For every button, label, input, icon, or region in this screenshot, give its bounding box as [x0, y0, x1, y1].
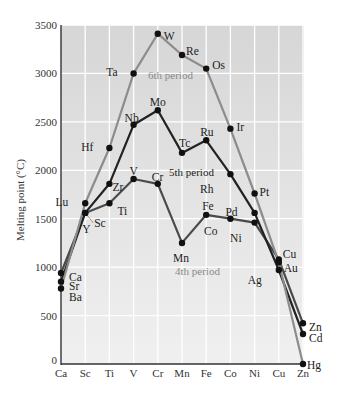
x-tick-label: Ti — [105, 367, 114, 379]
point-label: Mn — [173, 252, 189, 264]
point-label: Pt — [260, 186, 270, 198]
data-point — [58, 278, 64, 284]
point-label: Cu — [283, 248, 297, 260]
y-axis-ticks: 0500100015002000250030003500 — [35, 19, 58, 366]
point-label: Ag — [248, 274, 262, 287]
point-label: Fe — [202, 200, 214, 212]
data-point — [179, 150, 185, 156]
point-label: Au — [284, 262, 298, 274]
point-label: Cd — [309, 332, 323, 344]
point-label: Sc — [94, 217, 106, 229]
y-tick-label: 1500 — [35, 213, 58, 225]
point-label: Ru — [200, 126, 214, 138]
point-label: Rh — [200, 183, 214, 195]
data-point — [300, 331, 306, 337]
data-point — [276, 267, 282, 273]
y-tick-label: 1000 — [35, 261, 58, 273]
y-axis-title: Melting point (°C) — [14, 159, 27, 241]
data-point — [227, 125, 233, 131]
period-label: 4th period — [175, 265, 220, 277]
point-label: Y — [82, 223, 91, 235]
y-tick-label: 3500 — [35, 19, 58, 31]
point-label: Lu — [55, 196, 68, 208]
y-tick-label: 3000 — [35, 67, 58, 79]
data-point — [106, 200, 112, 206]
data-point — [179, 240, 185, 246]
data-point — [251, 219, 257, 225]
data-point — [82, 210, 88, 216]
point-label: Hg — [307, 359, 321, 372]
x-tick-label: Sc — [80, 367, 91, 379]
x-axis-ticks: CaScTiVCrMnFeCoNiCuZn — [55, 367, 310, 379]
x-tick-label: Fe — [201, 367, 212, 379]
point-label: Tc — [179, 137, 190, 149]
x-tick-label: Cu — [272, 367, 285, 379]
point-label: Mo — [150, 96, 166, 108]
point-label: Ti — [117, 205, 127, 217]
point-label: Ir — [236, 121, 244, 133]
point-label: Pd — [225, 206, 237, 218]
data-point — [82, 200, 88, 206]
data-point — [227, 171, 233, 177]
period-label: 5th period — [169, 166, 214, 178]
period-label: 6th period — [148, 69, 193, 81]
point-label: Hf — [81, 141, 93, 153]
point-label: Nb — [125, 112, 139, 124]
data-point — [203, 212, 209, 218]
x-tick-label: Cr — [152, 367, 163, 379]
data-point — [300, 320, 306, 326]
y-tick-label: 2000 — [35, 164, 58, 176]
x-tick-label: Ni — [249, 367, 260, 379]
data-point — [58, 270, 64, 276]
x-tick-label: V — [130, 367, 138, 379]
point-label: Sr — [69, 280, 79, 292]
x-tick-label: Ca — [55, 367, 67, 379]
x-tick-label: Mn — [174, 367, 190, 379]
data-point — [155, 31, 161, 37]
point-label: V — [130, 165, 139, 177]
y-tick-label: 2500 — [35, 116, 58, 128]
point-label: Ni — [230, 232, 242, 244]
point-label: Cr — [152, 171, 164, 183]
point-label: Ta — [106, 66, 117, 78]
y-tick-label: 500 — [41, 310, 58, 322]
point-label: W — [164, 30, 175, 42]
melting-point-chart: 0500100015002000250030003500 CaScTiVCrMn… — [0, 0, 337, 395]
data-point — [58, 285, 64, 291]
data-point — [106, 145, 112, 151]
data-point — [251, 190, 257, 196]
data-point — [179, 52, 185, 58]
data-point — [203, 65, 209, 71]
point-label: Ba — [69, 291, 82, 303]
point-label: Co — [204, 225, 218, 237]
point-label: Re — [186, 45, 199, 57]
x-tick-label: Co — [224, 367, 237, 379]
data-point — [130, 70, 136, 76]
data-point — [251, 210, 257, 216]
point-label: Os — [212, 59, 225, 71]
data-point — [300, 361, 306, 367]
point-label: Zr — [112, 181, 123, 193]
y-tick-label: 0 — [52, 354, 58, 366]
data-point — [276, 259, 282, 265]
